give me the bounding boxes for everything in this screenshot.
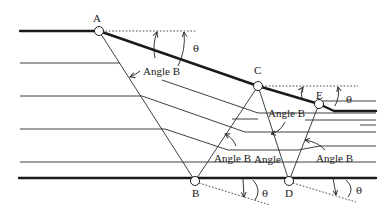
- label-c: C: [254, 64, 261, 76]
- point-b: [191, 177, 200, 186]
- geologic-dip-diagram: A B C D E Angle B Angle B Angle B Angle …: [0, 0, 391, 217]
- angle-b-label-3: Angle B: [214, 152, 251, 164]
- point-d: [285, 177, 294, 186]
- point-c: [254, 82, 263, 91]
- theta-label-top-left: θ: [193, 43, 199, 54]
- label-e: E: [316, 89, 323, 101]
- angle-label-4: Angle: [254, 153, 281, 165]
- theta-label-top-right: θ: [346, 94, 352, 105]
- point-a: [95, 27, 104, 36]
- theta-arcs: [154, 32, 351, 200]
- theta-label-bottom-b: θ: [262, 188, 268, 199]
- theta-label-bottom-d: θ: [356, 185, 362, 196]
- construction-lines: [99, 31, 319, 181]
- angle-b-label-2: Angle B: [268, 107, 305, 119]
- angle-b-label-5: Angle B: [316, 152, 353, 164]
- angle-b-label-1: Angle B: [143, 65, 180, 77]
- label-d: D: [285, 187, 293, 199]
- label-b: B: [192, 187, 199, 199]
- label-a: A: [93, 12, 101, 24]
